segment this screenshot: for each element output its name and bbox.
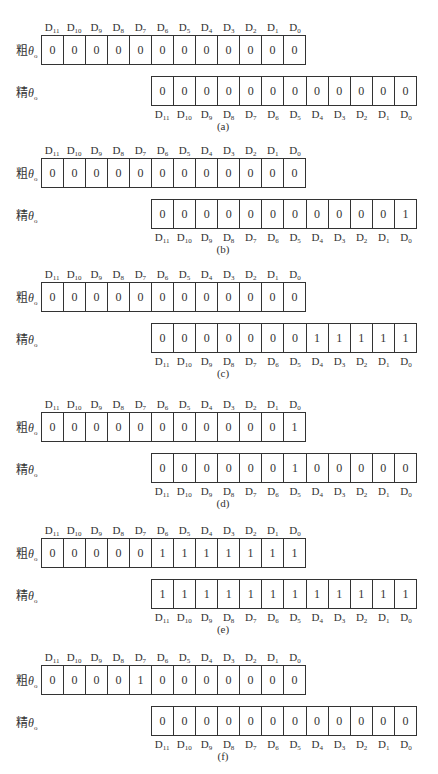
bit-label: D6 xyxy=(262,737,284,751)
bit-label: D7 xyxy=(240,484,262,498)
bit-label: D10 xyxy=(173,230,195,244)
fine-bit-labels: D11D10D9D8D7D6D5D4D3D2D1D0 xyxy=(151,737,417,751)
bit-cell: 0 xyxy=(86,539,108,567)
bit-cell: 0 xyxy=(86,36,108,64)
bit-cell: 0 xyxy=(329,707,351,735)
bit-label: D6 xyxy=(262,107,284,121)
fine-register: 000000000001 xyxy=(151,199,417,229)
bit-cell: 1 xyxy=(218,580,240,608)
bit-label: D7 xyxy=(240,737,262,751)
bit-label: D5 xyxy=(173,397,195,411)
panel-caption: (e) xyxy=(0,623,438,635)
bit-cell: 0 xyxy=(86,159,108,187)
bit-cell: 0 xyxy=(240,454,262,482)
bit-label: D9 xyxy=(195,107,217,121)
bit-label: D6 xyxy=(151,267,173,281)
fine-theta-label: 精θo xyxy=(16,460,37,479)
bit-cell: 0 xyxy=(152,324,174,352)
bit-cell: 0 xyxy=(307,77,329,105)
bit-label: D5 xyxy=(284,230,306,244)
bit-cell: 0 xyxy=(218,454,240,482)
bit-cell: 1 xyxy=(307,580,329,608)
bit-label: D8 xyxy=(107,397,129,411)
bit-label: D4 xyxy=(196,650,218,664)
panel-caption: (b) xyxy=(0,243,438,255)
bit-label: D6 xyxy=(262,230,284,244)
bit-label: D2 xyxy=(240,267,262,281)
bit-cell: 0 xyxy=(42,36,64,64)
bit-label: D7 xyxy=(240,610,262,624)
bit-label: D5 xyxy=(284,484,306,498)
coarse-register: 000000000000 xyxy=(41,35,306,65)
bit-cell: 1 xyxy=(218,539,240,567)
bit-cell: 0 xyxy=(284,283,305,311)
bit-label: D0 xyxy=(284,650,306,664)
bit-cell: 0 xyxy=(218,324,240,352)
bit-label: D0 xyxy=(284,20,306,34)
bit-label: D11 xyxy=(151,230,173,244)
bit-cell: 0 xyxy=(42,539,64,567)
bit-label: D7 xyxy=(129,143,151,157)
bit-cell: 1 xyxy=(395,580,416,608)
fine-theta-label: 精θo xyxy=(16,713,37,732)
bit-cell: 0 xyxy=(262,707,284,735)
bit-label: D1 xyxy=(262,20,284,34)
bit-cell: 0 xyxy=(373,200,395,228)
bit-cell: 1 xyxy=(329,324,351,352)
bit-label: D3 xyxy=(328,354,350,368)
bit-cell: 0 xyxy=(240,666,262,694)
bit-cell: 0 xyxy=(196,666,218,694)
bit-cell: 0 xyxy=(373,77,395,105)
bit-cell: 0 xyxy=(108,413,130,441)
bit-cell: 1 xyxy=(307,324,329,352)
bit-label: D1 xyxy=(373,107,395,121)
bit-label: D1 xyxy=(262,523,284,537)
bit-label: D9 xyxy=(195,230,217,244)
bit-cell: 0 xyxy=(307,200,329,228)
bit-cell: 0 xyxy=(196,324,218,352)
bit-label: D7 xyxy=(129,397,151,411)
bit-cell: 1 xyxy=(152,539,174,567)
bit-cell: 0 xyxy=(196,413,218,441)
bit-label: D3 xyxy=(328,484,350,498)
panel-caption: (a) xyxy=(0,120,438,132)
bit-label: D11 xyxy=(151,610,173,624)
bit-cell: 0 xyxy=(262,666,284,694)
bit-cell: 0 xyxy=(262,77,284,105)
bit-label: D9 xyxy=(85,20,107,34)
panel-c: D11D10D9D8D7D6D5D4D3D2D1D0000000000000粗θ… xyxy=(0,266,438,391)
bit-label: D7 xyxy=(240,230,262,244)
bit-cell: 0 xyxy=(174,159,196,187)
bit-cell: 1 xyxy=(395,200,416,228)
bit-label: D10 xyxy=(173,610,195,624)
bit-cell: 0 xyxy=(152,36,174,64)
bit-cell: 0 xyxy=(174,454,196,482)
bit-cell: 1 xyxy=(174,580,196,608)
bit-label: D9 xyxy=(85,523,107,537)
bit-label: D8 xyxy=(107,267,129,281)
bit-label: D0 xyxy=(395,484,417,498)
bit-cell: 1 xyxy=(240,539,262,567)
bit-label: D1 xyxy=(373,230,395,244)
bit-label: D10 xyxy=(63,650,85,664)
bit-cell: 0 xyxy=(284,200,306,228)
bit-label: D8 xyxy=(218,610,240,624)
bit-cell: 0 xyxy=(196,283,218,311)
bit-label: D9 xyxy=(85,267,107,281)
bit-label: D1 xyxy=(373,354,395,368)
bit-label: D4 xyxy=(196,143,218,157)
bit-cell: 0 xyxy=(240,159,262,187)
bit-cell: 1 xyxy=(351,324,373,352)
bit-label: D11 xyxy=(41,20,63,34)
bit-label: D3 xyxy=(218,20,240,34)
coarse-register: 000001111111 xyxy=(41,538,306,568)
bit-label: D9 xyxy=(195,737,217,751)
bit-cell: 0 xyxy=(42,283,64,311)
bit-label: D0 xyxy=(395,107,417,121)
bit-cell: 0 xyxy=(262,413,284,441)
fine-bit-labels: D11D10D9D8D7D6D5D4D3D2D1D0 xyxy=(151,354,417,368)
bit-cell: 0 xyxy=(218,36,240,64)
bit-cell: 0 xyxy=(240,200,262,228)
bit-cell: 1 xyxy=(284,580,306,608)
bit-label: D2 xyxy=(351,737,373,751)
